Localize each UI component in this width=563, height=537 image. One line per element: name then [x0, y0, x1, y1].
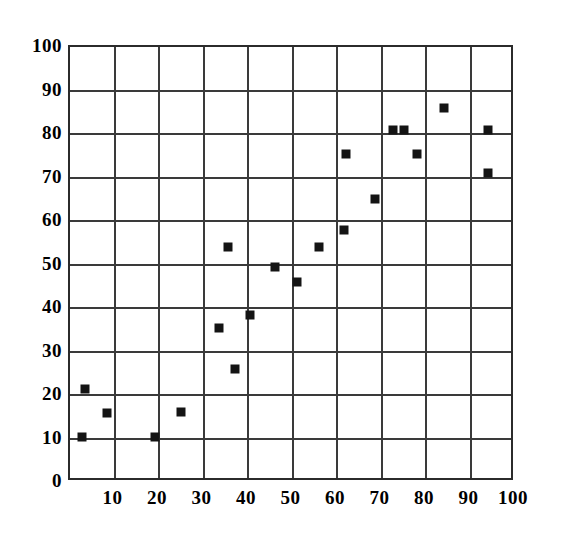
gridline-horizontal-60	[70, 220, 511, 222]
data-point	[341, 149, 350, 158]
data-point	[177, 408, 186, 417]
y-tick-label-50: 50	[42, 253, 62, 272]
gridline-horizontal-50	[70, 264, 511, 266]
x-tick-label-100: 100	[498, 488, 528, 507]
data-point	[246, 310, 255, 319]
gridline-horizontal-40	[70, 307, 511, 309]
y-tick-label-80: 80	[42, 123, 62, 142]
data-point	[230, 364, 239, 373]
gridline-vertical-50	[292, 47, 294, 478]
gridline-horizontal-10	[70, 438, 511, 440]
plot-area	[68, 45, 513, 480]
data-point	[484, 169, 493, 178]
y-tick-label-60: 60	[42, 210, 62, 229]
scatter-plot-figure: 0102030405060708090100 10203040506070809…	[0, 0, 563, 537]
data-point	[215, 323, 224, 332]
x-tick-label-70: 70	[370, 488, 390, 507]
data-point	[370, 195, 379, 204]
data-point	[270, 262, 279, 271]
y-tick-label-0: 0	[52, 471, 62, 490]
y-tick-label-70: 70	[42, 166, 62, 185]
data-point	[292, 277, 301, 286]
gridline-vertical-80	[425, 47, 427, 478]
data-point	[81, 385, 90, 394]
x-tick-label-30: 30	[192, 488, 212, 507]
gridline-vertical-30	[203, 47, 205, 478]
data-point	[339, 225, 348, 234]
x-tick-label-90: 90	[459, 488, 479, 507]
gridline-horizontal-80	[70, 133, 511, 135]
gridline-vertical-90	[470, 47, 472, 478]
data-point	[150, 433, 159, 442]
x-tick-label-40: 40	[236, 488, 256, 507]
data-point	[484, 125, 493, 134]
data-point	[223, 243, 232, 252]
y-tick-label-40: 40	[42, 297, 62, 316]
data-point	[103, 408, 112, 417]
x-tick-label-10: 10	[103, 488, 123, 507]
gridline-vertical-10	[114, 47, 116, 478]
x-tick-label-60: 60	[325, 488, 345, 507]
x-tick-label-80: 80	[414, 488, 434, 507]
y-tick-label-100: 100	[32, 36, 62, 55]
gridline-vertical-20	[158, 47, 160, 478]
gridline-horizontal-70	[70, 177, 511, 179]
gridline-horizontal-90	[70, 90, 511, 92]
x-tick-label-20: 20	[147, 488, 167, 507]
data-point	[78, 433, 87, 442]
data-point	[399, 125, 408, 134]
data-point	[388, 125, 397, 134]
gridline-horizontal-20	[70, 394, 511, 396]
x-axis-tick-labels: 102030405060708090100	[68, 488, 543, 518]
y-axis-tick-labels: 0102030405060708090100	[0, 45, 62, 480]
y-tick-label-10: 10	[42, 427, 62, 446]
y-tick-label-20: 20	[42, 384, 62, 403]
gridline-vertical-60	[336, 47, 338, 478]
x-tick-label-50: 50	[281, 488, 301, 507]
gridline-horizontal-30	[70, 351, 511, 353]
data-point	[439, 103, 448, 112]
data-point	[315, 243, 324, 252]
gridline-vertical-70	[381, 47, 383, 478]
data-point	[413, 149, 422, 158]
y-tick-label-30: 30	[42, 340, 62, 359]
gridline-vertical-40	[247, 47, 249, 478]
y-tick-label-90: 90	[42, 79, 62, 98]
